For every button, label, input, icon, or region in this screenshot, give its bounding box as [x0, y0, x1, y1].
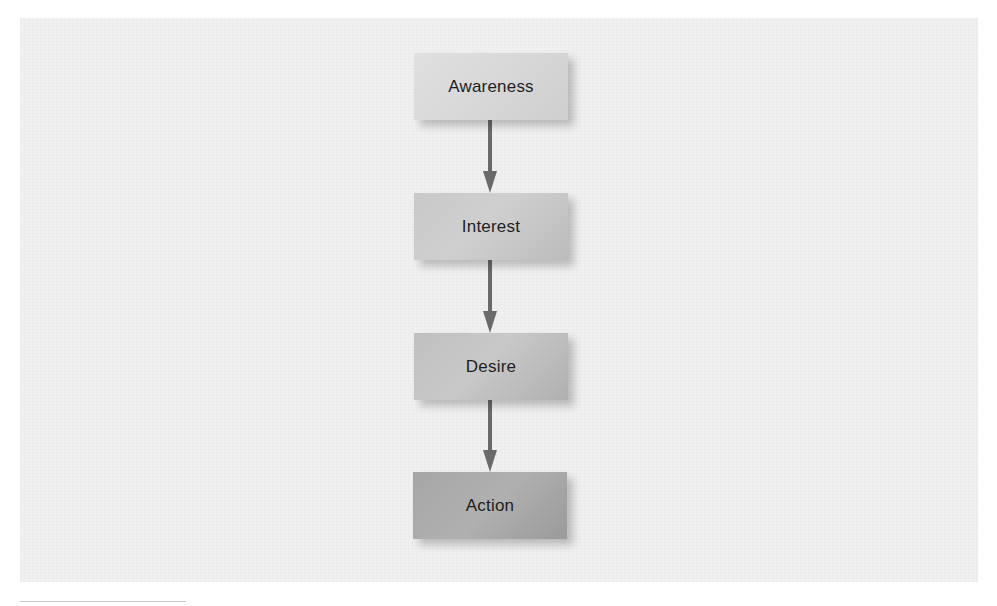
connector-line-desire-action — [488, 400, 492, 451]
stage-label: Desire — [466, 357, 516, 377]
arrow-down-icon — [483, 311, 497, 333]
stage-box-awareness: Awareness — [414, 53, 568, 120]
footer-divider — [20, 601, 186, 602]
stage-box-action: Action — [413, 472, 567, 539]
arrow-down-icon — [483, 171, 497, 193]
connector-line-interest-desire — [488, 260, 492, 312]
diagram-canvas: Awareness Interest Desire Action — [0, 0, 997, 606]
stage-label: Interest — [462, 217, 520, 237]
stage-label: Action — [466, 496, 514, 516]
stage-label: Awareness — [448, 77, 534, 97]
stage-box-desire: Desire — [414, 333, 568, 400]
arrow-down-icon — [483, 450, 497, 472]
connector-line-awareness-interest — [488, 120, 492, 172]
stage-box-interest: Interest — [414, 193, 568, 260]
